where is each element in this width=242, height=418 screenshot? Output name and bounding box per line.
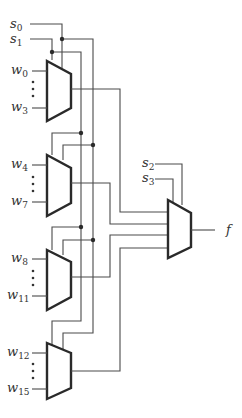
ellipsis-dot (32, 277, 35, 280)
label-w12: w12 (7, 344, 30, 361)
mux-final (155, 164, 215, 258)
label-w7: w7 (11, 193, 28, 210)
wire-s0-mux2 (63, 240, 93, 255)
ellipsis-dot (32, 270, 35, 273)
ellipsis-dot (32, 88, 35, 91)
ellipsis-dot (32, 190, 35, 193)
label-w0: w0 (11, 62, 28, 79)
ellipsis-dot (32, 370, 35, 373)
junction-dot (50, 50, 54, 54)
mux-3-body (47, 343, 71, 399)
label-w15: w15 (7, 380, 30, 397)
junction-dot (79, 131, 83, 135)
junction-dot (79, 225, 83, 229)
label-w11: w11 (7, 287, 30, 304)
ellipsis-dot (32, 363, 35, 366)
junction-dot (91, 238, 95, 242)
label-f: f (225, 222, 233, 237)
label-s3: s3 (142, 170, 155, 187)
wire-s0-mux1 (63, 145, 93, 160)
ellipsis-dot (32, 176, 35, 179)
mux-0-body (47, 61, 71, 121)
wire-s2 (155, 164, 182, 205)
mux-2-body (47, 250, 71, 310)
ellipsis-dot (32, 284, 35, 287)
label-w8: w8 (11, 250, 28, 267)
label-w3: w3 (11, 99, 28, 116)
ellipsis-dot (32, 377, 35, 380)
wire-s3 (155, 179, 173, 203)
wire-s1 (30, 39, 52, 60)
junction-dot (60, 37, 64, 41)
wire-s1-mux2 (52, 227, 81, 250)
label-s1: s1 (10, 31, 22, 48)
ellipsis-dot (32, 183, 35, 186)
wire-s1-mux1 (52, 133, 81, 155)
ellipsis-dot (32, 95, 35, 98)
wire-mux0-out (71, 89, 168, 212)
mux-1-body (47, 155, 71, 216)
junction-dot (91, 143, 95, 147)
label-w4: w4 (11, 156, 28, 173)
multiplexer-diagram: s0 s1 w0 w3 w4 w7 w8 w11 w12 w15 s2 s3 f (0, 0, 242, 418)
ellipsis-dot (32, 81, 35, 84)
wire-mux3-out (71, 248, 168, 371)
mux-final-body (168, 200, 191, 258)
